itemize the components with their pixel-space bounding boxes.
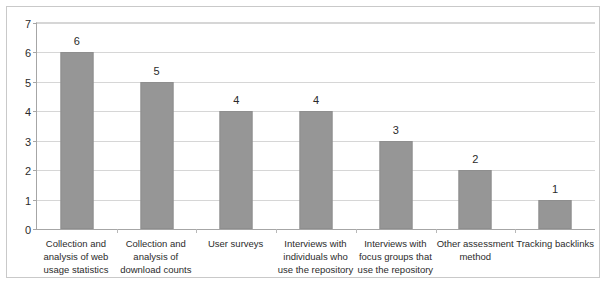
- y-axis-tick-label: 0: [25, 225, 31, 236]
- bar-value-label: 6: [74, 36, 80, 47]
- x-axis-category-label: Interviews with individuals who use the …: [276, 235, 356, 277]
- gridline-0: 0: [37, 229, 595, 230]
- y-axis-tick-label: 5: [25, 77, 31, 88]
- bar-value-label: 5: [153, 66, 159, 77]
- plot-area: 01234567 6544321: [36, 22, 595, 229]
- bar[interactable]: [60, 52, 93, 229]
- bar-slot: 2: [436, 23, 516, 229]
- bar-slot: 4: [196, 23, 276, 229]
- x-axis-tick-mark: [436, 229, 437, 233]
- bar-value-label: 4: [313, 95, 319, 106]
- bar[interactable]: [459, 170, 492, 229]
- bar[interactable]: [140, 82, 173, 229]
- bar-slot: 4: [276, 23, 356, 229]
- y-axis-tick-label: 3: [25, 136, 31, 147]
- bars-layer: 6544321: [37, 23, 595, 229]
- bar-slot: 5: [117, 23, 197, 229]
- bar[interactable]: [539, 200, 572, 229]
- bar-slot: 3: [356, 23, 436, 229]
- y-axis-tick-label: 4: [25, 107, 31, 118]
- bar-slot: 1: [515, 23, 595, 229]
- y-axis-tick-label: 6: [25, 48, 31, 59]
- x-axis-tick-mark: [276, 229, 277, 233]
- bar[interactable]: [379, 141, 412, 229]
- x-axis-tick-mark: [117, 229, 118, 233]
- x-axis-tick-mark: [515, 229, 516, 233]
- x-axis-category-label: Tracking backlinks: [515, 235, 595, 277]
- y-axis-tick-label: 2: [25, 166, 31, 177]
- bar-value-label: 3: [393, 125, 399, 136]
- x-axis-category-label: Interviews with focus groups that use th…: [355, 235, 435, 277]
- bar-value-label: 1: [552, 184, 558, 195]
- x-axis-category-label: Other assessment method: [435, 235, 515, 277]
- x-axis-category-label: User surveys: [196, 235, 276, 277]
- bar[interactable]: [220, 111, 253, 229]
- bar-value-label: 2: [472, 154, 478, 165]
- y-axis-tick-label: 7: [25, 19, 31, 30]
- x-axis-category-labels: Collection and analysis of web usage sta…: [36, 235, 595, 277]
- y-axis-tick-mark: [33, 229, 37, 230]
- x-axis-tick-mark: [196, 229, 197, 233]
- y-axis-tick-label: 1: [25, 195, 31, 206]
- bar-value-label: 4: [233, 95, 239, 106]
- x-axis-category-label: Collection and analysis of download coun…: [116, 235, 196, 277]
- bar[interactable]: [299, 111, 332, 229]
- x-axis-category-label: Collection and analysis of web usage sta…: [36, 235, 116, 277]
- bar-slot: 6: [37, 23, 117, 229]
- x-axis-tick-mark: [356, 229, 357, 233]
- chart-frame: 01234567 6544321 Collection and analysis…: [6, 6, 600, 278]
